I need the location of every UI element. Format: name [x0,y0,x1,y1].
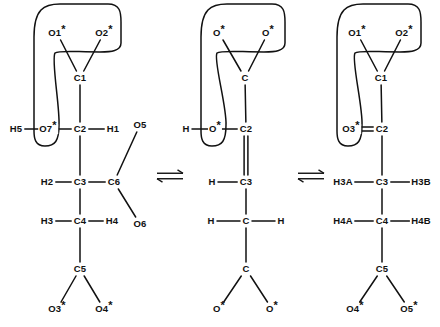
atom-label-l_o5: O5 [132,120,147,130]
bond-single [387,276,405,302]
atom-label-r_c1: C1 [374,73,389,83]
bond-single [61,40,77,71]
bond-single [360,276,378,302]
atom-label-r_h4b: H4B [410,216,432,226]
atom-label-l_h4: H4 [105,216,120,226]
label-asterisk: * [361,23,365,35]
atom-label-r_o4: O4* [345,304,365,314]
bond-single [61,276,76,302]
atom-label-m_o3: O* [212,304,226,314]
atom-label-m_c4: C [241,216,250,226]
label-asterisk: * [274,299,278,311]
atom-label-l_o6: O6 [132,219,147,229]
bond-single [251,276,268,302]
atom-label-l_c5: C5 [73,264,88,274]
label-asterisk: * [108,299,112,311]
atom-label-l_h2: H2 [40,177,55,187]
bond-single [118,189,135,217]
atom-label-m_o4: O* [265,304,279,314]
label-asterisk: * [217,119,221,131]
atom-label-r_c2: C2 [375,124,390,134]
atom-label-l_o1: O1* [47,28,67,38]
atom-label-r_c4: C4 [375,216,390,226]
atom-label-r_h3a: H3A [332,177,354,187]
atom-label-l_c3: C3 [73,177,88,187]
diagram-canvas: O1*O2*C1H5O7*C2H1O5H2C3C6O6H3C4H4C5O3*O4… [0,0,440,327]
label-asterisk: * [52,119,56,131]
atom-label-r_c3: C3 [375,177,390,187]
atom-label-l_h3: H3 [40,216,55,226]
atom-label-l_o7: O7* [38,124,58,134]
bond-single [245,85,246,122]
label-asterisk: * [355,119,359,131]
atom-label-m_o7: O* [208,124,222,134]
atom-label-m_c1: C [240,73,249,83]
atom-label-r_o2: O2* [394,28,414,38]
atom-label-m_ha: H [206,216,215,226]
bond-single [361,40,378,71]
label-asterisk: * [413,299,417,311]
atom-label-r_o1: O1* [347,28,367,38]
atom-label-l_c6: C6 [107,177,122,187]
bond-single [249,40,265,71]
atom-label-m_o2: O* [261,28,275,38]
bond-single [117,132,137,175]
label-asterisk: * [408,23,412,35]
atom-label-r_o5: O5* [399,304,419,314]
right-structure-bonds [337,4,421,302]
bond-single [385,40,401,71]
label-asterisk: * [221,299,225,311]
middle-structure-bonds [192,4,285,302]
atom-label-r_o3: O3* [341,124,361,134]
atom-label-l_o4: O4* [94,304,114,314]
equilibrium-arrow-right [298,170,324,182]
left-structure-bonds [25,4,137,302]
atom-label-m_h3: H [207,177,216,187]
atom-label-m_hb: H [276,216,285,226]
bond-single [84,40,101,71]
atom-label-m_c5: C [241,264,250,274]
atom-label-l_h5: H5 [9,124,24,134]
atom-label-r_h3b: H3B [410,177,432,187]
bond-single [381,85,382,122]
atom-label-l_h1: H1 [106,124,121,134]
bond-layer [0,0,440,327]
atom-label-l_o2: O2* [94,28,114,38]
atom-label-l_c4: C4 [73,216,88,226]
atom-label-l_c2: C2 [73,124,88,134]
bond-single [223,40,241,71]
atom-label-m_h: H [181,124,190,134]
atom-label-m_c3: C3 [239,177,254,187]
label-asterisk: * [359,299,363,311]
label-asterisk: * [221,23,225,35]
label-asterisk: * [61,23,65,35]
equilibrium-arrow-left [157,170,183,182]
bond-single [84,276,100,302]
atom-label-r_c5: C5 [375,264,390,274]
bond-single [224,276,242,302]
label-asterisk: * [270,23,274,35]
atom-label-m_c2: C2 [239,124,254,134]
atom-label-r_h4a: H4A [332,216,354,226]
atom-label-l_c1: C1 [73,73,88,83]
label-asterisk: * [108,23,112,35]
atom-label-l_o3: O3* [47,304,67,314]
atom-label-m_o1: O* [212,28,226,38]
label-asterisk: * [61,299,65,311]
